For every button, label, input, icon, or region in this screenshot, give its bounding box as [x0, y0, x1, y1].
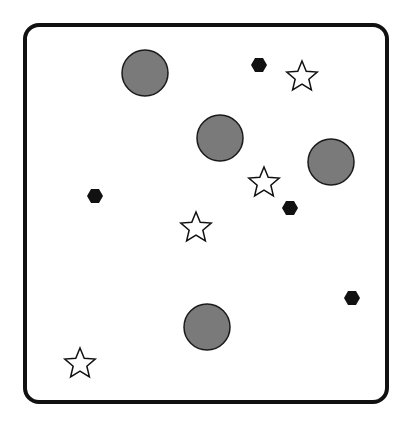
outline-star-icon-1	[287, 61, 317, 90]
gray-circle-2	[197, 115, 243, 161]
black-hexagon-1	[251, 58, 267, 72]
shapes-layer	[0, 0, 413, 427]
gray-circle-3	[308, 139, 354, 185]
gray-circle-1	[122, 50, 168, 96]
black-hexagon-3	[282, 201, 298, 215]
black-hexagon-4	[344, 291, 360, 305]
outline-star-icon-2	[249, 167, 279, 196]
gray-circle-4	[184, 304, 230, 350]
black-hexagon-2	[87, 189, 103, 203]
outline-star-icon-4	[65, 348, 95, 377]
diagram-canvas	[0, 0, 413, 427]
outline-star-icon-3	[181, 212, 211, 241]
